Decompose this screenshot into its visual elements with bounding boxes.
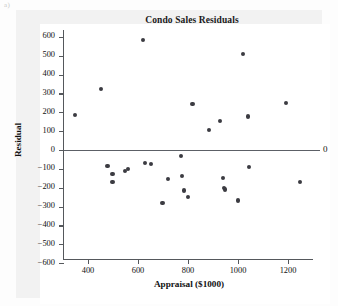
y-tick-mark <box>59 37 64 38</box>
scatter-point <box>186 195 190 199</box>
y-tick-mark <box>59 131 64 132</box>
y-tick-label: −300 <box>15 201 55 210</box>
y-tick-mark <box>59 225 64 226</box>
x-tick-mark <box>288 259 289 264</box>
scatter-point <box>182 188 186 192</box>
y-tick-mark <box>59 244 64 245</box>
scatter-point <box>221 176 225 180</box>
y-tick-mark <box>59 56 64 57</box>
scatter-point <box>284 101 288 105</box>
chart-title: Condo Sales Residuals <box>63 15 321 25</box>
scatter-point <box>218 119 222 123</box>
scatter-point <box>246 114 250 118</box>
x-tick-label: 600 <box>118 266 158 275</box>
scatter-point <box>99 87 103 91</box>
y-tick-mark <box>59 93 64 94</box>
y-tick-mark <box>59 112 64 113</box>
zero-reference-label: 0 <box>323 144 328 154</box>
x-tick-label: 1000 <box>218 266 258 275</box>
scatter-point <box>126 167 130 171</box>
y-tick-label: −600 <box>15 258 55 267</box>
y-tick-label: 300 <box>15 88 55 97</box>
x-tick-mark <box>238 259 239 264</box>
scatter-point <box>105 164 109 168</box>
scatter-point <box>236 198 240 202</box>
x-tick-label: 1200 <box>268 266 308 275</box>
y-tick-mark <box>59 188 64 189</box>
x-tick-label: 800 <box>168 266 208 275</box>
chart-panel <box>16 10 322 298</box>
x-tick-mark <box>138 259 139 264</box>
y-tick-label: 500 <box>15 50 55 59</box>
y-tick-mark <box>59 75 64 76</box>
scatter-point <box>241 52 245 56</box>
figure-container: a) Condo Sales Residuals 0 6005004003002… <box>0 0 338 306</box>
scatter-point <box>223 187 227 191</box>
scatter-point <box>110 172 114 176</box>
y-tick-label: 600 <box>15 31 55 40</box>
y-axis-title: Residual <box>13 100 23 180</box>
plot-canvas <box>40 24 330 304</box>
zero-reference-line <box>63 150 320 151</box>
y-tick-mark <box>59 207 64 208</box>
x-tick-mark <box>88 259 89 264</box>
y-tick-label: −400 <box>15 220 55 229</box>
y-tick-label: −200 <box>15 182 55 191</box>
x-tick-label: 400 <box>68 266 108 275</box>
scatter-point <box>141 38 145 42</box>
scatter-point <box>110 180 114 184</box>
scatter-point <box>190 102 194 106</box>
scatter-point <box>166 177 170 181</box>
x-tick-mark <box>188 259 189 264</box>
x-axis-title: Appraisal ($1000) <box>63 279 315 289</box>
y-tick-mark <box>59 150 64 151</box>
y-tick-label: −500 <box>15 239 55 248</box>
y-tick-mark <box>59 169 64 170</box>
scatter-point <box>179 154 183 158</box>
scatter-point <box>143 161 147 165</box>
y-tick-mark <box>59 263 64 264</box>
y-tick-label: 400 <box>15 69 55 78</box>
figure-part-label: a) <box>4 1 10 9</box>
